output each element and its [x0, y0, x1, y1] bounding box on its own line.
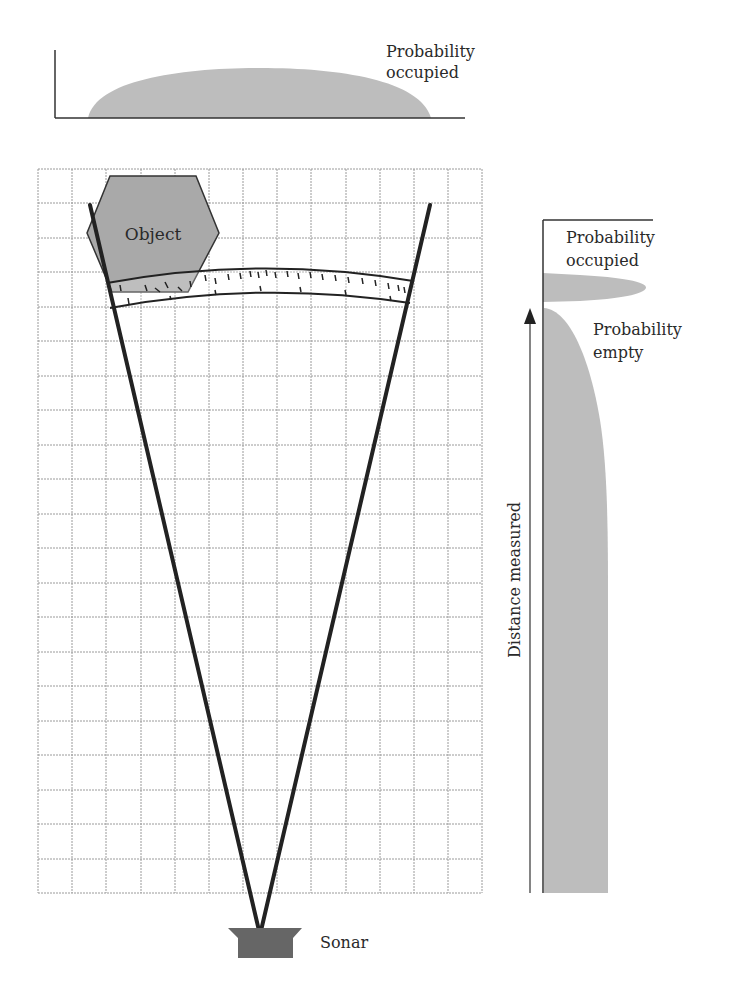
sonar-label: Sonar [320, 933, 368, 952]
object-label: Object [125, 224, 182, 244]
right-probability-chart: Probability occupied Probability empty D… [505, 220, 682, 893]
top-probability-chart: Probability occupied [55, 42, 475, 118]
top-chart-label-1: Probability [386, 42, 475, 61]
empty-label-2: empty [593, 343, 643, 362]
occupied-label-2: occupied [566, 251, 639, 270]
empty-distribution [544, 308, 608, 893]
occupied-label-1: Probability [566, 228, 655, 247]
beam-right-edge [260, 205, 430, 935]
sonar-occupancy-diagram: Probability occupied Object [0, 0, 731, 991]
empty-label-1: Probability [593, 320, 682, 339]
distance-measured-label: Distance measured [505, 502, 524, 658]
sonar-device: Sonar [228, 928, 368, 958]
arrow-up-icon [524, 308, 536, 324]
top-occupied-distribution [88, 68, 431, 118]
sonar-icon [228, 928, 302, 958]
occupied-distribution [543, 273, 646, 302]
top-chart-label-2: occupied [386, 63, 459, 82]
